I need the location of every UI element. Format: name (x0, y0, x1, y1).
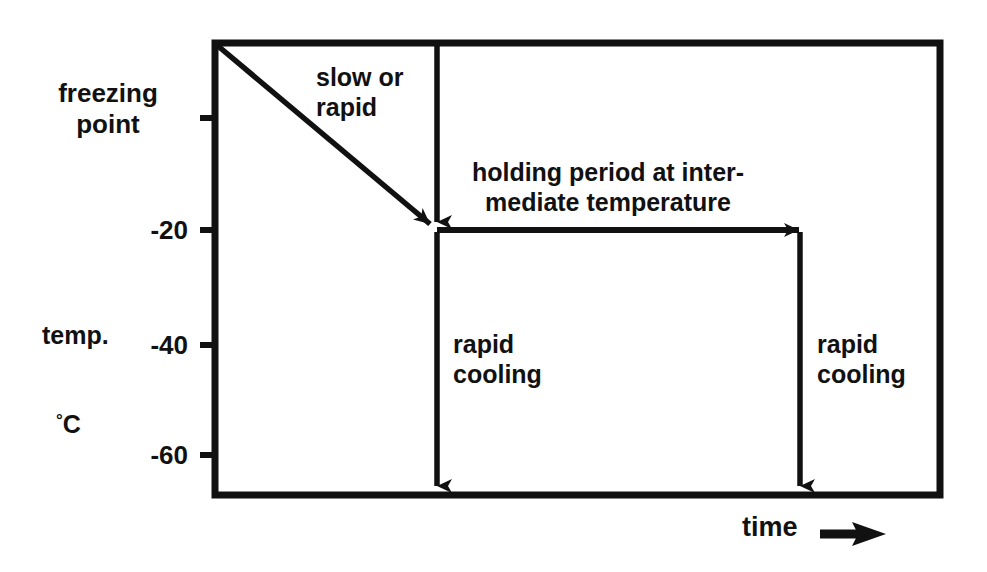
annotation-rapid-cooling-left-line1: rapid (453, 330, 514, 358)
annotation-holding-period-line1: holding period at inter- (472, 158, 744, 186)
y-tick-label-minus20: -20 (110, 215, 188, 246)
y-axis-title-unit: C (63, 410, 81, 438)
x-axis-title: time (742, 512, 798, 544)
y-tick-label-freezing-point-line2: point (76, 109, 140, 139)
annotation-slow-or-rapid-line2: rapid (316, 93, 377, 121)
annotation-holding-period-line2: mediate temperature (485, 188, 731, 216)
y-tick-label-freezing-point: freezingpoint (28, 78, 188, 139)
annotation-rapid-cooling-left: rapidcooling (453, 330, 603, 389)
y-tick-label-freezing-point-line1: freezing (58, 78, 158, 108)
time-axis-arrow-icon (820, 522, 886, 546)
y-axis-title-line2: °C (18, 410, 168, 440)
annotation-rapid-cooling-left-line2: cooling (453, 360, 542, 388)
annotation-rapid-cooling-right-line1: rapid (817, 330, 878, 358)
annotation-holding-period: holding period at inter-mediate temperat… (443, 158, 773, 217)
annotation-slow-or-rapid: slow orrapid (316, 63, 446, 122)
y-axis-title-line1: temp. (18, 321, 168, 351)
cooling-protocol-diagram: freezingpoint -20 -40 -60 temp. °C slow … (0, 0, 987, 572)
annotation-slow-or-rapid-line1: slow or (316, 63, 404, 91)
y-axis-title: temp. °C (18, 262, 168, 498)
annotation-rapid-cooling-right: rapidcooling (817, 330, 967, 389)
annotation-rapid-cooling-right-line2: cooling (817, 360, 906, 388)
degree-symbol-icon: ° (56, 411, 63, 430)
